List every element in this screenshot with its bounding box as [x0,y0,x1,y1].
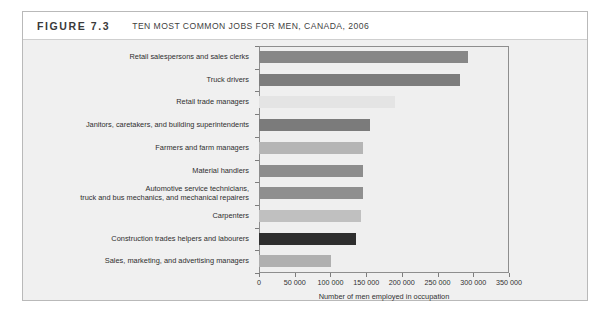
category-label: Retail salespersons and sales clerks [21,53,249,62]
y-axis-tick [255,137,259,138]
x-axis-tick-label: 0 [257,278,261,287]
bar-row [259,205,509,228]
y-axis-tick [255,46,259,47]
y-axis-tick [255,69,259,70]
bar-row [259,182,509,205]
bar-row [259,137,509,160]
category-label: Construction trades helpers and labourer… [21,235,249,244]
x-axis-tick [509,273,510,277]
category-label: Farmers and farm managers [21,144,249,153]
y-axis-tick [255,228,259,229]
bar [259,165,363,177]
bars-layer [259,46,509,273]
x-axis-tick [330,273,331,277]
category-label: Retail trade managers [21,98,249,107]
x-axis-tick [295,273,296,277]
bar [259,210,361,222]
bar-row [259,46,509,69]
bar [259,142,363,154]
y-axis-tick [255,273,259,274]
figure-header: FIGURE 7.3 TEN MOST COMMON JOBS FOR MEN,… [23,12,587,40]
figure-number: FIGURE 7.3 [37,20,110,32]
figure-box: FIGURE 7.3 TEN MOST COMMON JOBS FOR MEN,… [22,11,588,301]
x-axis-tick [402,273,403,277]
x-axis-ticks [259,273,509,277]
bar [259,119,370,131]
y-axis-tick [255,205,259,206]
category-labels: Retail salespersons and sales clerksTruc… [23,46,255,273]
category-label: Material handlers [21,167,249,176]
category-label: Automotive service technicians, truck an… [21,185,249,202]
category-label: Sales, marketing, and advertising manage… [21,257,249,266]
x-axis-tick [473,273,474,277]
x-axis-label: Number of men employed in occupation [259,292,509,301]
bar [259,74,460,86]
y-axis-tick [255,160,259,161]
bar [259,233,356,245]
x-axis-tick-label: 300 000 [460,278,486,287]
bar-row [259,250,509,273]
y-axis-tick [255,91,259,92]
bar [259,187,363,199]
category-label: Truck drivers [21,76,249,85]
category-label: Carpenters [21,212,249,221]
figure-body: Retail salespersons and sales clerksTruc… [23,40,587,300]
x-axis-tick-label: 50 000 [284,278,306,287]
x-axis-tick [438,273,439,277]
bar-row [259,228,509,251]
bar [259,51,468,63]
bar-row [259,91,509,114]
category-label: Janitors, caretakers, and building super… [21,121,249,130]
y-axis-tick [255,114,259,115]
figure-container: FIGURE 7.3 TEN MOST COMMON JOBS FOR MEN,… [0,0,610,321]
bar-chart: Retail salespersons and sales clerksTruc… [23,40,587,300]
bar-row [259,114,509,137]
x-axis-tick-label: 200 000 [389,278,415,287]
bar [259,255,331,267]
bar-row [259,160,509,183]
x-axis-tick-label: 250 000 [425,278,451,287]
bar [259,96,395,108]
x-axis-tick-label: 100 000 [317,278,343,287]
figure-title: TEN MOST COMMON JOBS FOR MEN, CANADA, 20… [132,21,369,31]
bar-row [259,69,509,92]
x-axis-tick-label: 150 000 [353,278,379,287]
x-axis-tick-label: 350 000 [496,278,522,287]
y-axis-tick [255,182,259,183]
x-axis-tick-labels: 050 000100 000150 000200 000250 000300 0… [259,278,509,289]
y-axis-tick [255,250,259,251]
x-axis-tick [259,273,260,277]
x-axis-tick [366,273,367,277]
